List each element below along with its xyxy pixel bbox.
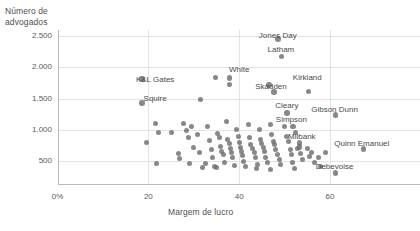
scatter-chart: Número de advogados Margem de lucro Jone… bbox=[0, 0, 420, 231]
data-point bbox=[169, 130, 174, 135]
data-point-kirkland bbox=[306, 89, 312, 95]
point-label: Gibson Dunn bbox=[311, 105, 358, 114]
data-point bbox=[222, 160, 227, 165]
data-point-white bbox=[227, 75, 233, 81]
data-point bbox=[323, 150, 328, 155]
x-tick-label: 20 bbox=[128, 192, 168, 201]
data-point bbox=[243, 164, 248, 169]
data-point bbox=[184, 128, 189, 133]
point-label: Squire bbox=[144, 94, 167, 103]
data-point bbox=[230, 155, 235, 160]
data-point bbox=[265, 160, 270, 165]
data-point bbox=[253, 155, 258, 160]
data-point bbox=[153, 121, 158, 126]
data-point bbox=[186, 135, 191, 140]
point-label: Debevoise bbox=[316, 162, 354, 171]
data-point bbox=[144, 140, 149, 145]
data-point bbox=[181, 121, 186, 126]
point-label: White bbox=[229, 65, 249, 74]
data-point bbox=[218, 144, 223, 149]
point-label: Simpson bbox=[276, 115, 307, 124]
data-point bbox=[189, 124, 194, 129]
x-tick-label: 0% bbox=[38, 192, 78, 201]
y-axis-title: Número de advogados bbox=[5, 6, 48, 27]
data-point bbox=[236, 134, 241, 139]
data-point bbox=[177, 156, 182, 161]
data-point bbox=[288, 147, 293, 152]
point-label: Kirkland bbox=[293, 73, 322, 82]
data-point bbox=[309, 150, 314, 155]
data-point bbox=[191, 145, 196, 150]
data-point bbox=[207, 138, 212, 143]
x-tick-label: 60 bbox=[310, 192, 350, 201]
data-point bbox=[197, 150, 202, 155]
point-label: Milbank bbox=[288, 132, 316, 141]
data-point bbox=[292, 166, 297, 171]
data-point bbox=[252, 150, 257, 155]
data-point bbox=[262, 149, 267, 154]
point-label: K&L Gates bbox=[136, 75, 174, 84]
data-point bbox=[269, 132, 274, 137]
data-point bbox=[214, 165, 219, 170]
data-point bbox=[246, 122, 251, 127]
data-point bbox=[198, 97, 203, 102]
data-point bbox=[257, 127, 262, 132]
data-point bbox=[210, 155, 215, 160]
point-label: Latham bbox=[268, 45, 295, 54]
data-point bbox=[224, 119, 229, 124]
data-point bbox=[289, 152, 294, 157]
data-point bbox=[205, 124, 210, 129]
data-point bbox=[232, 163, 237, 168]
y-tick-label: 500 bbox=[12, 156, 52, 165]
data-point bbox=[268, 122, 273, 127]
data-point bbox=[240, 153, 245, 158]
data-point bbox=[254, 166, 259, 171]
gridline-vertical bbox=[239, 30, 240, 184]
y-axis-line bbox=[58, 30, 59, 184]
data-point bbox=[290, 160, 295, 165]
data-point bbox=[263, 155, 268, 160]
data-point-white-2 bbox=[227, 82, 233, 88]
data-point bbox=[217, 135, 222, 140]
data-point bbox=[154, 161, 159, 166]
data-point bbox=[209, 147, 214, 152]
y-tick-label: 1.000 bbox=[12, 125, 52, 134]
point-label: Jones Day bbox=[259, 31, 297, 40]
point-label: Quinn Emanuel bbox=[334, 139, 389, 148]
gridline-vertical bbox=[148, 30, 149, 184]
data-point bbox=[213, 75, 218, 80]
x-axis-line bbox=[58, 184, 420, 185]
x-tick-label: 40 bbox=[219, 192, 259, 201]
data-point bbox=[247, 135, 252, 140]
data-point bbox=[187, 161, 192, 166]
y-tick-label: 1.500 bbox=[12, 94, 52, 103]
y-tick-label: 2.500 bbox=[12, 31, 52, 40]
data-point bbox=[298, 151, 303, 156]
point-label: Cleary bbox=[275, 101, 298, 110]
data-point bbox=[221, 152, 226, 157]
x-axis-title: Margem de lucro bbox=[168, 207, 233, 218]
data-point bbox=[241, 159, 246, 164]
data-point bbox=[156, 130, 161, 135]
data-point bbox=[316, 155, 321, 160]
data-point bbox=[278, 162, 283, 167]
point-label: Skadden bbox=[255, 82, 287, 91]
y-tick-label: 2.000 bbox=[12, 62, 52, 71]
data-point bbox=[268, 167, 273, 172]
data-point bbox=[203, 161, 208, 166]
data-point bbox=[195, 132, 200, 137]
